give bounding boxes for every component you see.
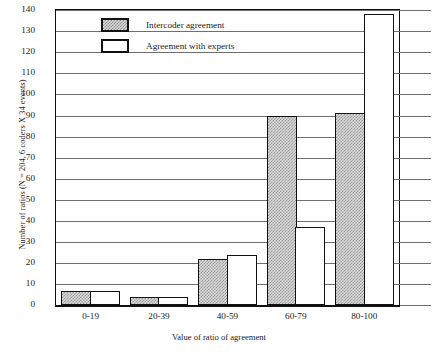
- bar: [198, 259, 228, 305]
- bar: [227, 255, 257, 306]
- y-tick-label: 90: [0, 111, 35, 120]
- x-tick-label: 80-100: [330, 311, 398, 321]
- legend-item: Agreement with experts: [101, 35, 301, 56]
- x-tick-label: 20-39: [125, 311, 193, 321]
- bar-chart-figure: Number of ratios (N = 204, 6 coders X 34…: [0, 0, 438, 355]
- y-tick-mark: [400, 137, 431, 138]
- bar-group: [330, 10, 398, 305]
- y-tick-label: 80: [0, 132, 35, 141]
- y-tick-mark: [400, 242, 431, 243]
- y-tick-label: 20: [0, 259, 35, 268]
- y-tick-label: 40: [0, 216, 35, 225]
- x-tick-labels: 0-1920-3940-5960-7980-100: [56, 311, 398, 321]
- y-tick-mark: [400, 52, 431, 53]
- y-tick-label: 120: [0, 48, 35, 57]
- bar: [61, 291, 91, 306]
- y-tick-label: 140: [0, 5, 35, 14]
- bar: [158, 297, 188, 305]
- bar: [90, 291, 120, 306]
- legend-label: Intercoder agreement: [146, 20, 224, 30]
- y-tick-mark: [400, 263, 431, 264]
- y-tick-label: 110: [0, 69, 35, 78]
- legend-label: Agreement with experts: [146, 41, 234, 51]
- y-tick-mark: [400, 73, 431, 74]
- legend-item: Intercoder agreement: [101, 14, 301, 35]
- bar: [267, 116, 297, 306]
- y-tick-mark: [400, 158, 431, 159]
- y-tick-mark: [400, 305, 431, 306]
- y-tick-label: 130: [0, 26, 35, 35]
- y-tick-mark: [400, 284, 431, 285]
- x-tick-label: 0-19: [56, 311, 124, 321]
- y-tick-label: 30: [0, 237, 35, 246]
- legend: Intercoder agreement Agreement with expe…: [101, 14, 301, 56]
- y-tick-label: 70: [0, 153, 35, 162]
- y-tick-mark: [400, 200, 431, 201]
- y-tick-mark: [400, 116, 431, 117]
- x-tick-label: 40-59: [193, 311, 261, 321]
- y-tick-mark: [400, 31, 431, 32]
- y-tick-mark: [400, 10, 431, 11]
- bar: [295, 227, 325, 305]
- bar: [364, 14, 394, 305]
- axis-bottom: [55, 305, 400, 307]
- bar: [335, 113, 365, 305]
- legend-swatch-intercoder-icon: [101, 18, 129, 32]
- y-tick-label: 50: [0, 195, 35, 204]
- y-tick-label: 60: [0, 174, 35, 183]
- x-axis-label: Value of ratio of agreement: [0, 332, 438, 342]
- y-tick-mark: [400, 94, 431, 95]
- y-tick-label: 100: [0, 90, 35, 99]
- y-tick-mark: [400, 179, 431, 180]
- bar: [130, 297, 160, 305]
- y-tick-label: 0: [0, 301, 35, 310]
- y-tick-mark: [400, 221, 431, 222]
- y-tick-label: 10: [0, 280, 35, 289]
- x-tick-label: 60-79: [262, 311, 330, 321]
- legend-swatch-experts-icon: [101, 39, 129, 53]
